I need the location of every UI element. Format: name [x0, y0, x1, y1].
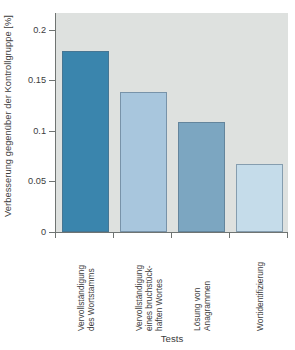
x-tick-mark-4	[287, 233, 288, 238]
x-category-label-1: Vervollständigung eines bruchstück- haft…	[134, 239, 165, 331]
x-category-label-3: Wortidentifizierung	[255, 239, 265, 331]
bar-chart-figure: 0.2 0.15 0.1 0.05 0 Verbesserung gegenüb…	[0, 0, 295, 350]
y-axis-line	[55, 13, 56, 233]
x-tick-mark-3	[229, 233, 230, 238]
bar-vervollstaendigung-bruchstueckhaften-wortes[interactable]	[120, 92, 167, 232]
x-axis-title: Tests	[56, 333, 288, 344]
bar-wortidentifizierung[interactable]	[236, 164, 283, 232]
x-tick-mark-0	[55, 233, 56, 238]
bar-vervollstaendigung-des-wortstamms[interactable]	[62, 51, 109, 232]
y-tick-mark-0.15	[49, 80, 55, 81]
x-category-label-0: Vervollständigung des Wortstamms	[76, 239, 96, 331]
y-tick-mark-0.1	[49, 131, 55, 132]
x-category-label-2: Lösung von Anagrammen	[192, 239, 212, 331]
y-tick-mark-0.05	[49, 181, 55, 182]
x-tick-mark-1	[113, 233, 114, 238]
bar-loesung-von-anagrammen[interactable]	[178, 122, 225, 232]
y-tick-mark-0.2	[49, 30, 55, 31]
x-tick-mark-2	[171, 233, 172, 238]
y-axis-title: Verbesserung gegenüber der Kontrollgrupp…	[0, 0, 16, 232]
